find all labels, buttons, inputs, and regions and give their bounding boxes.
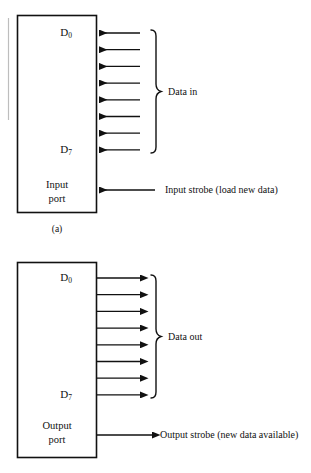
output-bus-group-label: Data out: [168, 332, 202, 342]
input-strobe-label: Input strobe (load new data): [165, 185, 278, 195]
input-bus-brace: [151, 30, 161, 153]
figure-canvas: D0 D7 Data in Input port Input strobe (l…: [0, 0, 311, 473]
diagram-vector-layer: [0, 0, 311, 473]
figure-caption-a: (a): [52, 225, 63, 235]
output-bus-top-label: D0: [60, 272, 72, 283]
input-bus-bottom-label: D7: [60, 144, 72, 155]
input-port-label-line1: Input: [46, 180, 68, 191]
output-strobe-label: Output strobe (new data available): [160, 430, 298, 440]
input-port-label-line2: port: [49, 194, 66, 205]
output-port-label-line2: port: [49, 435, 66, 446]
output-bus-bottom-label: D7: [60, 389, 72, 400]
output-bus-brace: [151, 275, 161, 398]
input-bus-top-label: D0: [60, 27, 72, 38]
output-port-label-line1: Output: [42, 421, 71, 432]
input-bus-group-label: Data in: [168, 87, 197, 97]
